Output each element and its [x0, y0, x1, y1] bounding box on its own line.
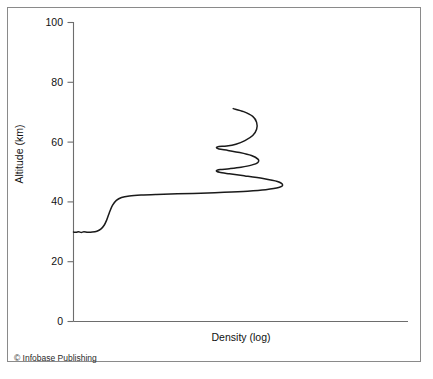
y-tick-label-40: 40 [30, 196, 63, 207]
x-axis-label: Density (log) [73, 331, 409, 343]
y-tick-label-100: 100 [30, 17, 63, 28]
density-profile-curve [74, 109, 283, 233]
copyright-notice: © Infobase Publishing [14, 353, 97, 363]
y-tick-label-0: 0 [30, 316, 63, 327]
y-axis-ticks [68, 23, 74, 322]
chart-canvas [0, 0, 433, 379]
y-axis-label: Altitude (km) [13, 99, 25, 209]
y-tick-label-80: 80 [30, 77, 63, 88]
y-tick-label-60: 60 [30, 137, 63, 148]
y-tick-label-20: 20 [30, 256, 63, 267]
